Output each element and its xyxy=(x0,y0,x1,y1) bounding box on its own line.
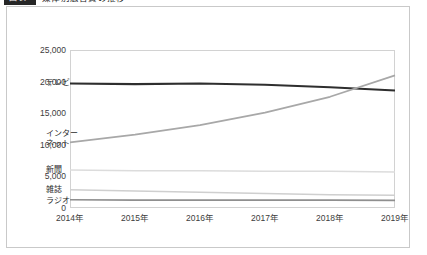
line-chart: 05,00010,00015,00020,00025,000 2014年2015… xyxy=(0,0,427,255)
x-tick-label: 2016年 xyxy=(186,213,214,223)
screenshot-root: 図表1 媒体別広告費の推移 05,00010,00015,00020,00025… xyxy=(0,0,427,255)
series-line xyxy=(70,190,395,196)
series-line xyxy=(70,200,395,201)
x-tick-label: 2018年 xyxy=(316,213,344,223)
series-line xyxy=(70,75,395,142)
series-line xyxy=(70,170,395,172)
x-tick-label: 2017年 xyxy=(251,213,279,223)
series-label-3: 雑誌 xyxy=(46,185,62,195)
x-tick-label: 2019年 xyxy=(381,213,409,223)
series-label-1: インター xyxy=(46,129,78,139)
y-tick-label: 25,000 xyxy=(20,46,66,55)
series-label-4: ラジオ xyxy=(46,196,70,206)
x-tick-label: 2014年 xyxy=(56,213,84,223)
series-label-2: 新聞 xyxy=(46,165,62,175)
y-tick-label: 15,000 xyxy=(20,109,66,118)
series-lines xyxy=(70,50,395,208)
series-line xyxy=(70,84,395,91)
series-label-0: テレビ xyxy=(46,78,70,88)
x-tick-label: 2015年 xyxy=(121,213,149,223)
series-label-1: ネット xyxy=(46,139,70,149)
